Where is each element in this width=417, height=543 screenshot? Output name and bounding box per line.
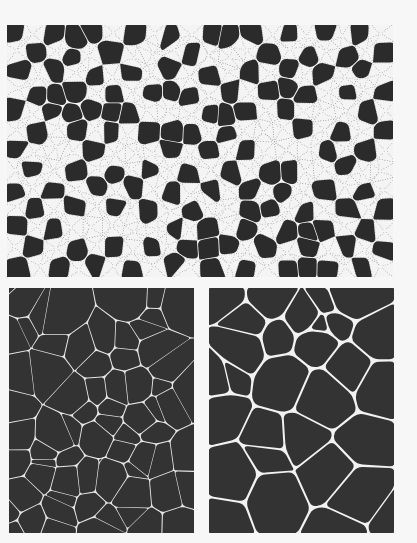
foam-cells (209, 288, 394, 533)
bottom-right-panel-thick-film-foam (209, 288, 394, 533)
bottom-left-panel-thin-film-foam (9, 288, 194, 533)
thin-film-foam-image (9, 288, 194, 533)
foam-cells (9, 288, 194, 533)
two-phase-pattern-image (7, 25, 393, 277)
top-panel-two-phase-pattern (7, 25, 393, 277)
thick-film-foam-image (209, 288, 394, 533)
